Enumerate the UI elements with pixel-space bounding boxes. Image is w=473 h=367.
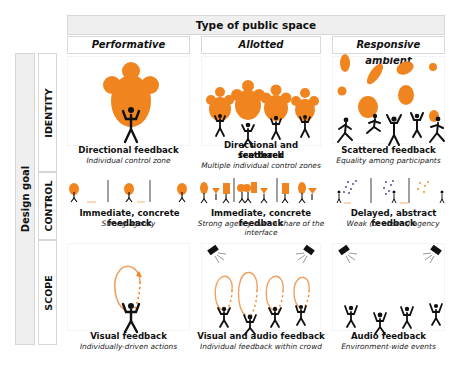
scope-allotted-title: Visual and audio feedback — [196, 331, 326, 341]
speaker-left-icon — [207, 245, 226, 263]
scope-performative-title: Visual feedback — [67, 331, 190, 341]
scope-allotted-illustration — [201, 243, 321, 331]
control-responsive-illustration — [336, 178, 448, 206]
identity-responsive-subtitle: Equality among participants — [328, 156, 449, 165]
speaker-left-icon — [338, 245, 357, 263]
identity-performative-illustration — [67, 56, 190, 146]
row-label-scope-text: SCOPE — [42, 275, 53, 310]
control-allotted-subtitle-line2: interface — [196, 228, 326, 237]
identity-allotted-subtitle: Multiple individual control zones — [196, 161, 326, 170]
single-person-orange-blob-icon — [68, 57, 191, 147]
column-header-responsive-ambient: Responsive ambient — [332, 36, 445, 54]
scope-allotted-subtitle: Individual feedback within crowd — [194, 342, 328, 351]
control-allotted-illustration — [198, 178, 326, 206]
identity-responsive-illustration — [332, 56, 445, 144]
speaker-right-icon — [296, 245, 315, 263]
control-responsive-subtitle: Weak (or absent) agency — [332, 219, 454, 228]
identity-performative-subtitle: Individual control zone — [67, 156, 190, 165]
design-goal-label: Design goal — [15, 53, 35, 345]
speaker-right-icon — [423, 245, 442, 263]
four-people-orange-blobs-icon — [202, 57, 322, 147]
sequence-shared-shapes-icon — [198, 178, 326, 206]
scope-performative-subtitle: Individually-driven actions — [62, 342, 195, 351]
row-label-scope: SCOPE — [38, 240, 57, 345]
speakers-loops-crowd-icon — [202, 244, 322, 332]
row-label-control-text: CONTROL — [42, 181, 53, 232]
crowd-scattered-blobs-icon — [333, 57, 446, 145]
scope-responsive-subtitle: Environment-wide events — [328, 342, 449, 351]
identity-performative-title: Directional feedback — [67, 145, 190, 155]
scope-responsive-illustration — [332, 243, 445, 331]
type-of-public-space-header: Type of public space — [67, 15, 445, 35]
control-performative-illustration — [62, 178, 194, 206]
column-header-performative: Performative — [67, 36, 190, 54]
identity-allotted-illustration — [201, 56, 321, 146]
row-label-identity: IDENTITY — [38, 53, 57, 172]
scope-performative-illustration — [67, 243, 190, 331]
row-label-identity-text: IDENTITY — [42, 88, 53, 137]
control-performative-subtitle: Strong agency — [67, 219, 190, 228]
identity-responsive-title: Scattered feedback — [332, 145, 445, 155]
scope-responsive-title: Audio feedback — [332, 331, 445, 341]
column-header-allotted: Allotted — [201, 36, 321, 54]
sequence-dots-icon — [336, 178, 448, 206]
sequence-person-blob-icon — [62, 178, 194, 206]
person-orange-loop-icon — [68, 244, 191, 332]
design-goal-text: Design goal — [20, 166, 31, 232]
identity-allotted-title-line2: feedback — [201, 150, 321, 160]
speakers-crowd-icon — [333, 244, 446, 332]
control-allotted-subtitle-line1: Strong agency over a share of the — [196, 219, 326, 228]
row-label-control: CONTROL — [38, 172, 57, 240]
